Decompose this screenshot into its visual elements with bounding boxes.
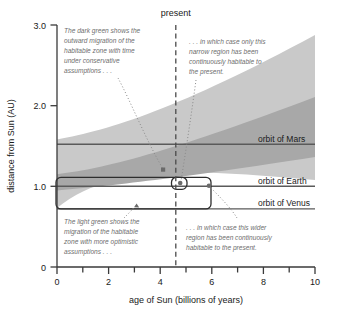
annotation-dark-green-line-3: habitable zone with time [64, 47, 135, 54]
x-tick-label-4: 4 [158, 277, 163, 287]
chart-figure: 3.0 2.0 1.0 0 0 2 4 6 8 10 age of Sun (b… [0, 0, 338, 314]
annotation-wider-region-line-2: region has been continuously [186, 234, 272, 242]
x-tick-label-2: 2 [106, 277, 111, 287]
annotation-dark-green-line-5: assumptions . . . [64, 67, 112, 75]
x-tick-label-10: 10 [310, 277, 320, 287]
orbit-label-venus: orbit of Venus [258, 198, 310, 208]
annotation-light-green-line-1: The light green shows the [64, 218, 140, 226]
annotation-light-green-line-2: migration of the habitable [64, 228, 138, 236]
x-axis-title: age of Sun (billions of years) [129, 295, 243, 305]
present-label: present [161, 8, 192, 18]
annotation-light-green-line-4: assumptions . . . [64, 248, 112, 256]
annotation-dark-green-line-1: The dark green shows the [64, 27, 141, 35]
leader-dot-narrow-region [178, 181, 183, 186]
leader-dot-dark-green [161, 168, 165, 172]
annotation-light-green-line-3: zone with more optimistic [63, 238, 139, 246]
x-tick-label-8: 8 [261, 277, 266, 287]
orbit-label-earth: orbit of Earth [258, 176, 307, 186]
leader-dot-wider-region [207, 184, 212, 189]
annotation-dark-green-line-2: outward migration of the [64, 37, 135, 45]
annotation-narrow-region-line-1: . . . in which case only this [189, 38, 266, 46]
annotation-narrow-region-line-2: narrow region has been [189, 48, 259, 56]
annotation-narrow-region-line-4: the present. [189, 68, 224, 76]
y-tick-label-0: 0 [41, 263, 46, 273]
y-tick-label-2.0: 2.0 [33, 101, 46, 111]
y-axis-title: distance from Sun (AU) [6, 99, 16, 193]
orbit-label-mars: orbit of Mars [258, 134, 305, 144]
annotation-wider-region-line-1: . . . in which case this wider [186, 224, 267, 231]
y-tick-label-3.0: 3.0 [33, 21, 46, 31]
annotation-narrow-region-line-3: continuously habitable to [189, 58, 262, 66]
x-tick-label-0: 0 [54, 277, 59, 287]
annotation-wider-region-line-3: habitable to the present. [186, 244, 257, 252]
annotation-dark-green-line-4: under conservative [64, 57, 120, 64]
y-tick-label-1.0: 1.0 [33, 182, 46, 192]
x-tick-label-6: 6 [209, 277, 214, 287]
